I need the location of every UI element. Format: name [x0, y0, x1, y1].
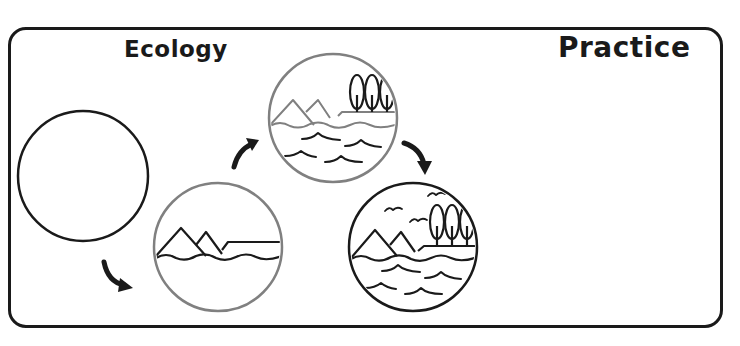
bird-icon: [385, 193, 445, 222]
wave-icon: [365, 265, 461, 294]
stage-2-circle: [154, 183, 282, 311]
mountain-icon: [306, 100, 330, 118]
curved-arrow-icon: [404, 143, 432, 175]
mountain-icon: [270, 100, 314, 125]
water-line: [270, 122, 398, 127]
water-line: [351, 255, 478, 260]
succession-diagram: [0, 0, 740, 346]
curved-arrow-icon: [234, 138, 259, 167]
curved-arrow-icon: [104, 262, 133, 292]
stage-3-circle: [269, 54, 398, 182]
tree-icon: [350, 75, 394, 112]
stage-1-empty-circle: [18, 111, 148, 241]
stage-4-circle: [349, 183, 478, 311]
mountain-icon: [390, 232, 415, 252]
wave-icon: [285, 133, 381, 162]
water-line: [156, 254, 282, 259]
